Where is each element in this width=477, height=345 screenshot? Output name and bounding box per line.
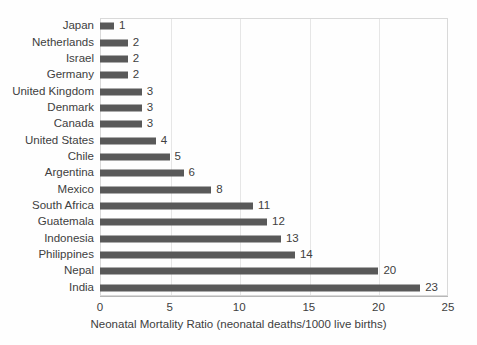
category-label: Guatemala (38, 217, 94, 229)
bar-value-label: 20 (383, 266, 396, 278)
bar-rows-container: Japan1Netherlands2Israel2Germany2United … (0, 18, 477, 296)
neonatal-mortality-bar-chart: Japan1Netherlands2Israel2Germany2United … (0, 0, 477, 345)
bar-row[interactable]: Germany2 (0, 67, 477, 83)
bar-value-label: 14 (300, 249, 313, 261)
x-tick-label: 5 (166, 299, 172, 315)
bar-row[interactable]: Philippines14 (0, 247, 477, 263)
bar-row[interactable]: Canada3 (0, 116, 477, 132)
x-tick-label: 15 (302, 299, 315, 315)
bar-value-label: 8 (216, 184, 222, 196)
bar-row[interactable]: Netherlands2 (0, 34, 477, 50)
bar-row[interactable]: Nepal20 (0, 263, 477, 279)
bar-value-label: 23 (425, 282, 438, 294)
category-label: Japan (63, 20, 94, 32)
bar-value-label: 4 (161, 135, 167, 147)
category-label: Philippines (38, 249, 94, 261)
category-label: United States (25, 135, 94, 147)
bar[interactable] (100, 203, 253, 210)
bar-value-label: 3 (147, 119, 153, 131)
bar-row[interactable]: Denmark3 (0, 100, 477, 116)
bar-value-label: 5 (175, 151, 181, 163)
bar[interactable] (100, 88, 142, 95)
bar-row[interactable]: Israel2 (0, 51, 477, 67)
bar[interactable] (100, 55, 128, 62)
category-label: Canada (54, 119, 94, 131)
x-tick-label: 10 (233, 299, 246, 315)
bar-row[interactable]: United States4 (0, 132, 477, 148)
bar-row[interactable]: Argentina6 (0, 165, 477, 181)
x-axis-line (100, 296, 448, 297)
bar[interactable] (100, 170, 184, 177)
category-label: Mexico (58, 184, 94, 196)
category-label: Chile (68, 151, 94, 163)
x-tick-label: 25 (442, 299, 455, 315)
bar[interactable] (100, 284, 420, 291)
bar-row[interactable]: South Africa11 (0, 198, 477, 214)
bar[interactable] (100, 219, 267, 226)
bar-row[interactable]: United Kingdom3 (0, 83, 477, 99)
category-label: Nepal (64, 266, 94, 278)
bar-value-label: 2 (133, 53, 139, 65)
bar-value-label: 6 (189, 168, 195, 180)
category-label: Israel (66, 53, 94, 65)
bar-row[interactable]: Guatemala12 (0, 214, 477, 230)
bar-value-label: 12 (272, 217, 285, 229)
bar[interactable] (100, 186, 211, 193)
bar[interactable] (100, 252, 295, 259)
bar-value-label: 11 (258, 200, 270, 212)
bar-row[interactable]: Japan1 (0, 18, 477, 34)
bar[interactable] (100, 104, 142, 111)
bar-value-label: 2 (133, 37, 139, 49)
x-tick-label: 20 (372, 299, 385, 315)
bar-row[interactable]: Indonesia13 (0, 231, 477, 247)
category-label: South Africa (32, 200, 94, 212)
x-axis-title: Neonatal Mortality Ratio (neonatal death… (0, 318, 477, 330)
bar[interactable] (100, 153, 170, 160)
bar[interactable] (100, 121, 142, 128)
category-label: Denmark (47, 102, 94, 114)
category-label: Indonesia (44, 233, 94, 245)
category-label: United Kingdom (12, 86, 94, 98)
bar-value-label: 3 (147, 102, 153, 114)
bar[interactable] (100, 72, 128, 79)
bar[interactable] (100, 39, 128, 46)
bar-value-label: 13 (286, 233, 299, 245)
bar[interactable] (100, 137, 156, 144)
bar-row[interactable]: India23 (0, 280, 477, 296)
category-label: Netherlands (32, 37, 94, 49)
bar-value-label: 1 (119, 20, 125, 32)
category-label: Germany (47, 69, 94, 81)
bar[interactable] (100, 268, 378, 275)
bar-row[interactable]: Mexico8 (0, 182, 477, 198)
category-label: Argentina (45, 168, 94, 180)
bar[interactable] (100, 23, 114, 30)
x-tick-label: 0 (97, 299, 103, 315)
x-axis-tick-labels: 0510152025 (0, 299, 477, 315)
bar-value-label: 3 (147, 86, 153, 98)
bar-value-label: 2 (133, 69, 139, 81)
bar-row[interactable]: Chile5 (0, 149, 477, 165)
bar[interactable] (100, 235, 281, 242)
category-label: India (69, 282, 94, 294)
